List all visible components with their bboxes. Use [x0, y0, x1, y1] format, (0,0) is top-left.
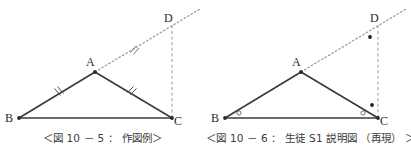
segment-AB [225, 72, 301, 118]
angle-mark-C-filled [370, 103, 374, 107]
vertex-label-A: A [86, 55, 95, 69]
tick-AC [128, 87, 137, 95]
vertex-dot-B [223, 116, 227, 120]
vertex-dot-B [17, 116, 21, 120]
ray-AD [95, 9, 200, 72]
vertex-label-D: D [164, 11, 173, 25]
vertex-label-C: C [174, 114, 182, 128]
tick-AD [131, 46, 140, 55]
figure-sheet: A B C D ＜図 10 － 5 ： 作図例＞ [0, 0, 411, 153]
vertex-dot-A [299, 70, 303, 74]
segment-AC [95, 72, 172, 118]
ray-AD [301, 9, 406, 72]
segment-AC [301, 72, 378, 118]
figure-drawing-10-5: A B C D [0, 0, 205, 128]
vertex-label-C: C [380, 114, 388, 128]
angle-mark-C [361, 111, 365, 115]
figure-panel-10-6: A B C D ＜図 10 － 6 ： 生徒 S1 説明図 （再現） ＞ [206, 0, 411, 153]
vertex-label-B: B [5, 111, 13, 125]
figure-drawing-10-6: A B C D [206, 0, 411, 128]
figure-caption-10-6: ＜図 10 － 6 ： 生徒 S1 説明図 （再現） ＞ [206, 130, 411, 145]
angle-mark-B [237, 111, 241, 115]
vertex-label-B: B [211, 111, 219, 125]
vertex-label-D: D [370, 11, 379, 25]
vertex-dot-A [93, 70, 97, 74]
figure-caption-10-5: ＜図 10 － 5 ： 作図例＞ [0, 130, 205, 145]
vertex-label-A: A [292, 55, 301, 69]
figure-panel-10-5: A B C D ＜図 10 － 5 ： 作図例＞ [0, 0, 205, 153]
segment-AB [19, 72, 95, 118]
angle-mark-D-filled [368, 35, 372, 39]
